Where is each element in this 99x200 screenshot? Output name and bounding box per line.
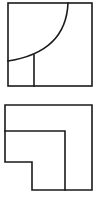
bottom-outer-outline (5, 105, 92, 190)
figure-top (8, 3, 92, 86)
figure-bottom (5, 105, 92, 190)
top-quarter-arc (8, 3, 68, 61)
diagram-canvas (0, 0, 99, 200)
bottom-inner-l-outline (5, 131, 65, 190)
